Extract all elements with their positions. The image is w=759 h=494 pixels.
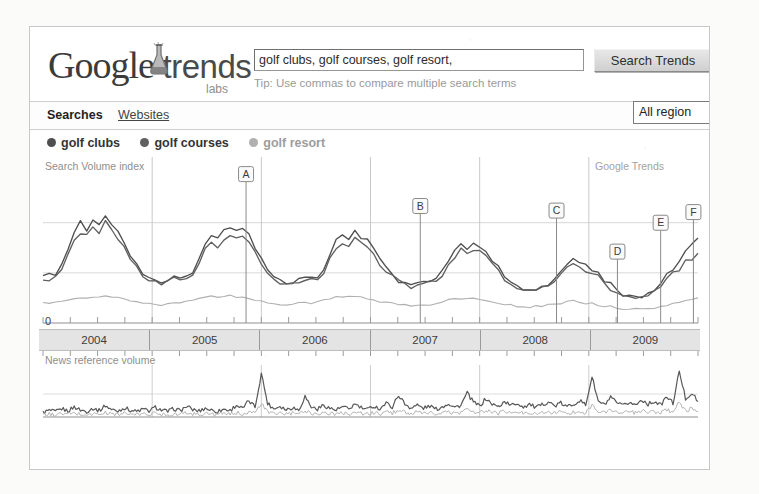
region-select[interactable]: All region [633, 101, 710, 124]
search-volume-label: Search Volume index [45, 160, 144, 172]
annotation-marker-B[interactable]: B [413, 199, 428, 214]
search-tip: Tip: Use commas to compare multiple sear… [254, 77, 516, 89]
annotation-marker-D[interactable]: D [610, 244, 625, 259]
trends-window: Google trends labs Search Trends Tip: Us… [29, 26, 710, 470]
search-volume-chart: Search Volume index Google Trends 0 ABCD… [39, 157, 700, 329]
page-header: Google trends labs Search Trends Tip: Us… [30, 27, 709, 101]
svg-text:C: C [553, 204, 561, 216]
svg-text:B: B [417, 200, 424, 212]
year-label-2006: 2006 [259, 330, 369, 350]
svg-text:E: E [657, 216, 664, 228]
annotation-marker-E[interactable]: E [653, 215, 668, 230]
search-trends-button[interactable]: Search Trends [594, 49, 710, 72]
svg-text:F: F [690, 206, 696, 218]
annotation-marker-C[interactable]: C [549, 203, 564, 218]
svg-text:A: A [243, 168, 250, 180]
legend-dot-icon-2 [249, 138, 258, 147]
legend-label-1: golf courses [154, 136, 228, 150]
svg-text:D: D [614, 245, 622, 257]
legend-item-2[interactable]: golf resort [249, 130, 325, 157]
legend-dot-icon-1 [140, 138, 149, 147]
year-label-2005: 2005 [149, 330, 259, 350]
year-label-2004: 2004 [39, 330, 149, 350]
logo-google-text: Google [48, 44, 154, 86]
labs-label: labs [206, 82, 228, 96]
search-volume-plot[interactable]: ABCDEF [39, 157, 702, 329]
series-legend: golf clubs golf courses golf resort [30, 130, 709, 157]
search-input[interactable] [254, 49, 584, 71]
legend-item-0[interactable]: golf clubs [47, 130, 120, 157]
nav-bar: Searches Websites All region [30, 101, 709, 130]
tab-websites[interactable]: Websites [118, 108, 169, 122]
tab-searches[interactable]: Searches [47, 108, 103, 122]
chart-watermark: Google Trends [595, 160, 664, 172]
year-axis: 200420052006200720082009 [39, 329, 700, 351]
search-row: Search Trends [254, 49, 698, 73]
year-label-2008: 2008 [480, 330, 590, 350]
year-label-2007: 2007 [370, 330, 480, 350]
lab-flask-icon [148, 42, 170, 76]
news-reference-chart: News reference volume [39, 351, 700, 423]
google-trends-logo[interactable]: Google trends labs [48, 40, 263, 96]
annotation-marker-A[interactable]: A [239, 167, 254, 182]
y-axis-zero-label: 0 [45, 315, 51, 327]
legend-item-1[interactable]: golf courses [140, 130, 228, 157]
annotation-marker-F[interactable]: F [686, 205, 701, 220]
legend-dot-icon-0 [47, 138, 56, 147]
legend-label-2: golf resort [263, 136, 325, 150]
legend-label-0: golf clubs [61, 136, 120, 150]
logo-trends-text: trends [163, 48, 252, 85]
news-volume-label: News reference volume [45, 354, 155, 366]
year-label-2009: 2009 [590, 330, 700, 350]
